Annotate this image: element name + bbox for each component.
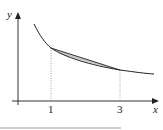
chart-plot: [0, 0, 163, 130]
tick-label-1: 1: [48, 104, 54, 115]
secant-chord: [51, 48, 120, 70]
curve: [34, 24, 154, 74]
y-axis-arrow-icon: [15, 12, 21, 19]
y-axis-label: y: [7, 9, 12, 20]
x-axis-label: x: [153, 104, 158, 115]
tick-label-3: 3: [117, 104, 123, 115]
